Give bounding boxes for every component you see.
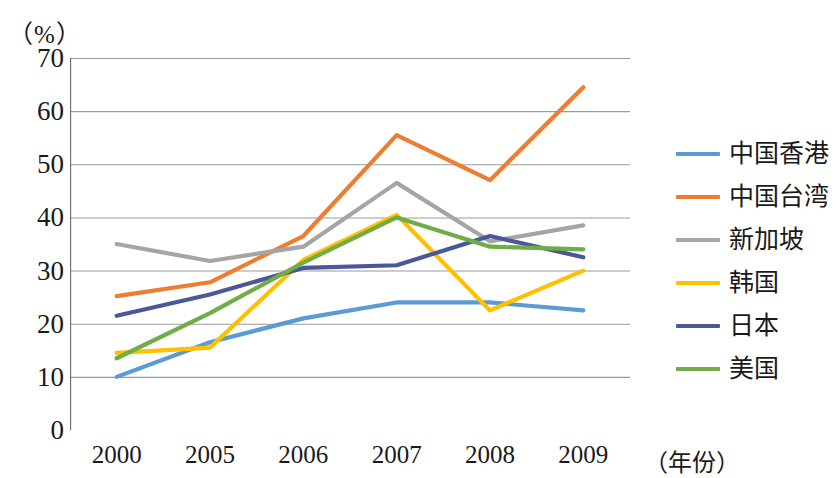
legend-item-0[interactable]: 中国香港 (676, 132, 839, 175)
y-axis-tick-70: 70 (8, 43, 64, 74)
legend-item-2[interactable]: 新加坡 (676, 218, 839, 261)
legend-item-4[interactable]: 日本 (676, 304, 839, 347)
legend-label: 韩国 (729, 270, 779, 295)
y-axis-tick-30: 30 (8, 255, 64, 286)
x-axis-tick-2000: 2000 (92, 441, 142, 469)
legend-item-1[interactable]: 中国台湾 (676, 175, 839, 218)
legend-label: 日本 (729, 313, 779, 338)
legend-item-5[interactable]: 美国 (676, 347, 839, 390)
y-axis-tick-10: 10 (8, 361, 64, 392)
x-axis-caption: （年份） (644, 443, 740, 478)
line-chart-svg (70, 58, 630, 430)
legend-label: 中国台湾 (729, 184, 829, 209)
x-axis-tick-2008: 2008 (465, 441, 515, 469)
legend-color-swatch (676, 195, 720, 199)
x-axis-tick-2007: 2007 (372, 441, 422, 469)
x-axis-tick-2006: 2006 (278, 441, 328, 469)
y-axis-tick-50: 50 (8, 149, 64, 180)
legend-item-3[interactable]: 韩国 (676, 261, 839, 304)
legend-color-swatch (676, 152, 720, 156)
x-axis-tick-2005: 2005 (185, 441, 235, 469)
legend-label: 中国香港 (729, 141, 829, 166)
y-axis-tick-labels: 706050403020100 (4, 0, 64, 478)
y-axis-tick-20: 20 (8, 308, 64, 339)
plot-area (70, 58, 630, 430)
legend-label: 美国 (729, 356, 779, 381)
legend-color-swatch (676, 367, 720, 371)
y-axis-tick-60: 60 (8, 96, 64, 127)
y-axis-tick-40: 40 (8, 202, 64, 233)
chart-legend: 中国香港中国台湾新加坡韩国日本美国 (676, 132, 839, 390)
series-line-0 (117, 302, 584, 376)
x-axis-tick-2009: 2009 (558, 441, 608, 469)
legend-color-swatch (676, 324, 720, 328)
chart-figure: （%） 706050403020100 20002005200620072008… (0, 0, 839, 478)
legend-color-swatch (676, 238, 720, 242)
legend-color-swatch (676, 281, 720, 285)
legend-label: 新加坡 (729, 227, 804, 252)
